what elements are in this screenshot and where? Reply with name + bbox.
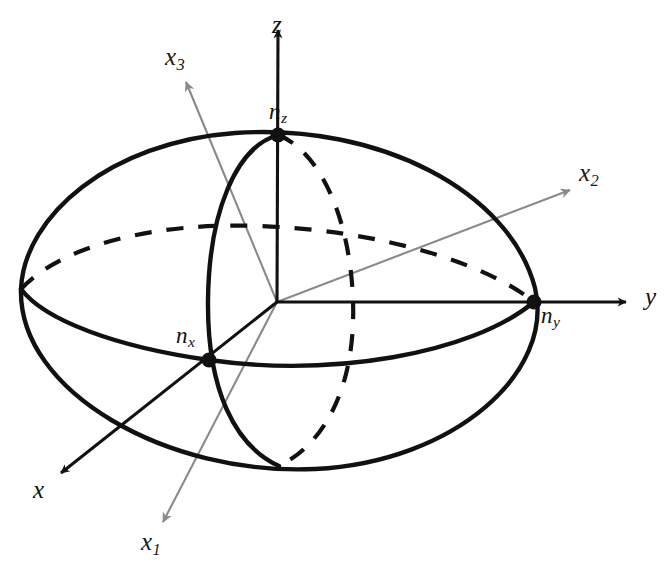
axis-label-x1-subscript: 1 xyxy=(153,540,161,559)
ellipsoid-diagram xyxy=(0,0,672,578)
intercept-dots-group xyxy=(202,128,542,368)
point-label-nx-subscript: x xyxy=(188,333,195,350)
axis-label-y: y xyxy=(645,284,656,309)
axis-label-x1-text: x xyxy=(141,528,152,555)
axis-z-line xyxy=(277,30,278,302)
point-label-nz: nz xyxy=(269,100,287,126)
axis-label-z-text: z xyxy=(272,11,282,38)
point-label-ny-text: n xyxy=(541,303,553,328)
axis-label-y-text: y xyxy=(645,283,656,310)
point-label-nx-text: n xyxy=(176,323,188,348)
axis-label-x2-text: x xyxy=(579,159,590,186)
intercept-dot-nz xyxy=(271,128,286,143)
figure-root: z y x x3 x2 x1 nz ny nx xyxy=(0,0,672,578)
axis-label-x1: x1 xyxy=(141,529,161,558)
axis-label-z: z xyxy=(272,12,282,37)
intercept-dot-nx xyxy=(202,353,217,368)
axis-label-x3-text: x xyxy=(165,43,176,70)
intercept-dot-ny xyxy=(527,295,542,310)
axis-label-x2: x2 xyxy=(579,160,599,189)
axis-x3-line xyxy=(186,82,277,302)
point-label-ny: ny xyxy=(541,304,560,330)
principal-axes-group xyxy=(61,30,626,473)
axis-label-x3-subscript: 3 xyxy=(177,55,185,74)
axis-label-x2-subscript: 2 xyxy=(591,171,599,190)
axis-label-x: x xyxy=(33,477,44,502)
axis-label-x-text: x xyxy=(33,476,44,503)
point-label-nz-subscript: z xyxy=(281,109,287,126)
axis-label-x3: x3 xyxy=(165,44,185,73)
point-label-nz-text: n xyxy=(269,99,281,124)
axis-x2-line xyxy=(277,190,570,302)
point-label-ny-subscript: y xyxy=(553,313,560,330)
point-label-nx: nx xyxy=(176,324,195,350)
